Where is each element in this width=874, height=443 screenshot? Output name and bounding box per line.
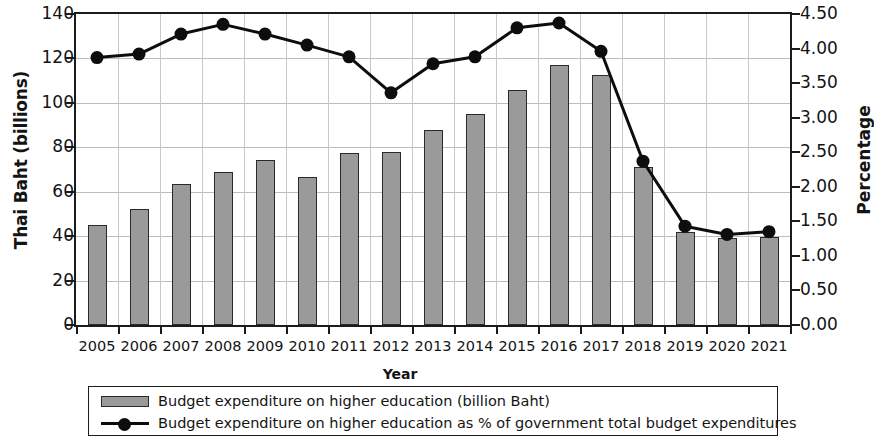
line-marker-2010 <box>301 39 314 52</box>
legend-item-line: Budget expenditure on higher education a… <box>97 412 777 434</box>
y-axis-left-tick-label: 0 <box>14 316 74 333</box>
y-axis-right-tick-mark <box>792 117 800 119</box>
line-marker-2016 <box>553 16 566 29</box>
x-axis-tick-mark <box>622 327 624 334</box>
line-marker-2017 <box>595 45 608 58</box>
y-axis-left-tick-mark <box>66 57 74 59</box>
x-axis-tick-mark <box>118 327 120 334</box>
x-axis-tick-label: 2005 <box>73 338 121 354</box>
line-marker-2019 <box>679 220 692 233</box>
y-axis-left-tick-mark <box>66 102 74 104</box>
y-axis-left-tick-label: 120 <box>14 49 74 66</box>
legend-item-label: Budget expenditure on higher education (… <box>158 394 550 409</box>
y-axis-right-tick-label: 3.00 <box>800 109 870 126</box>
legend-item-label: Budget expenditure on higher education a… <box>158 416 797 431</box>
x-axis-tick-label: 2014 <box>451 338 499 354</box>
y-axis-left-tick-mark <box>66 235 74 237</box>
x-axis-tick-mark <box>496 327 498 334</box>
y-axis-left-tick-mark <box>66 191 74 193</box>
line-marker-2021 <box>763 225 776 238</box>
y-axis-right-tick-mark <box>792 255 800 257</box>
y-axis-right-tick-label: 0.00 <box>800 316 870 333</box>
y-axis-right-tick-mark <box>792 13 800 15</box>
line-marker-2012 <box>385 86 398 99</box>
x-axis-tick-mark <box>790 327 792 334</box>
x-axis-tick-mark <box>244 327 246 334</box>
y-axis-right-tick-label: 2.00 <box>800 178 870 195</box>
x-axis-tick-mark <box>202 327 204 334</box>
y-axis-left-tick-mark <box>66 146 74 148</box>
x-axis-tick-label: 2018 <box>619 338 667 354</box>
y-axis-left-tick-label: 100 <box>14 94 74 111</box>
x-axis-tick-label: 2020 <box>703 338 751 354</box>
y-axis-right-tick-mark <box>792 82 800 84</box>
x-axis-tick-label: 2016 <box>535 338 583 354</box>
x-axis-tick-label: 2011 <box>325 338 373 354</box>
y-axis-right-tick-label: 4.50 <box>800 5 870 22</box>
x-axis-tick-mark <box>454 327 456 334</box>
x-axis-tick-mark <box>664 327 666 334</box>
x-axis-tick-label: 2008 <box>199 338 247 354</box>
x-axis-tick-label: 2006 <box>115 338 163 354</box>
line-marker-2008 <box>217 18 230 31</box>
x-axis-tick-label: 2019 <box>661 338 709 354</box>
y-axis-right-tick-mark <box>792 220 800 222</box>
line-series <box>76 14 790 325</box>
y-axis-right-tick-label: 1.00 <box>800 247 870 264</box>
line-marker-2006 <box>133 48 146 61</box>
x-axis-tick-mark <box>370 327 372 334</box>
line-marker-2014 <box>469 50 482 63</box>
x-axis-tick-mark <box>328 327 330 334</box>
y-axis-right-tick-label: 4.00 <box>800 40 870 57</box>
y-axis-left-tick-mark <box>66 324 74 326</box>
y-axis-left-tick-mark <box>66 13 74 15</box>
x-axis-tick-label: 2015 <box>493 338 541 354</box>
y-axis-right-tick-mark <box>792 48 800 50</box>
x-axis-tick-label: 2013 <box>409 338 457 354</box>
x-axis-tick-label: 2010 <box>283 338 331 354</box>
x-axis-tick-label: 2012 <box>367 338 415 354</box>
x-axis-tick-label: 2017 <box>577 338 625 354</box>
line-marker-2020 <box>721 228 734 241</box>
x-axis-tick-mark <box>580 327 582 334</box>
y-axis-left-tick-label: 80 <box>14 138 74 155</box>
line-marker-2011 <box>343 50 356 63</box>
legend-item-bar: Budget expenditure on higher education (… <box>97 390 777 412</box>
line-marker-2015 <box>511 21 524 34</box>
x-axis-tick-label: 2007 <box>157 338 205 354</box>
x-axis-tick-mark <box>748 327 750 334</box>
x-axis-tick-label: 2009 <box>241 338 289 354</box>
y-axis-right-tick-mark <box>792 324 800 326</box>
y-axis-right-tick-label: 1.50 <box>800 212 870 229</box>
line-marker-2009 <box>259 28 272 41</box>
y-axis-left-tick-label: 20 <box>14 272 74 289</box>
y-axis-right-tick-label: 3.50 <box>800 74 870 91</box>
line-marker-2018 <box>637 155 650 168</box>
chart-legend: Budget expenditure on higher education (… <box>88 386 778 436</box>
x-axis-title: Year <box>0 366 800 382</box>
y-axis-left-tick-label: 60 <box>14 183 74 200</box>
x-axis-tick-mark <box>160 327 162 334</box>
x-axis-tick-mark <box>412 327 414 334</box>
x-axis-tick-mark <box>706 327 708 334</box>
y-axis-left-tick-label: 40 <box>14 227 74 244</box>
line-marker-swatch-icon <box>101 416 149 430</box>
y-axis-right-tick-mark <box>792 186 800 188</box>
bar-swatch-icon <box>101 396 149 407</box>
y-axis-right-tick-mark <box>792 289 800 291</box>
x-axis-tick-mark <box>538 327 540 334</box>
x-axis-tick-mark <box>76 327 78 334</box>
y-axis-right-tick-mark <box>792 151 800 153</box>
y-axis-left-tick-mark <box>66 280 74 282</box>
x-axis-tick-label: 2021 <box>745 338 793 354</box>
line-path <box>97 23 769 234</box>
line-marker-2005 <box>91 51 104 64</box>
plot-area <box>74 12 792 327</box>
y-axis-right-tick-label: 2.50 <box>800 143 870 160</box>
line-marker-2007 <box>175 28 188 41</box>
y-axis-left-tick-label: 140 <box>14 5 74 22</box>
x-axis-tick-mark <box>286 327 288 334</box>
y-axis-right-tick-label: 0.50 <box>800 281 870 298</box>
line-marker-2013 <box>427 57 440 70</box>
